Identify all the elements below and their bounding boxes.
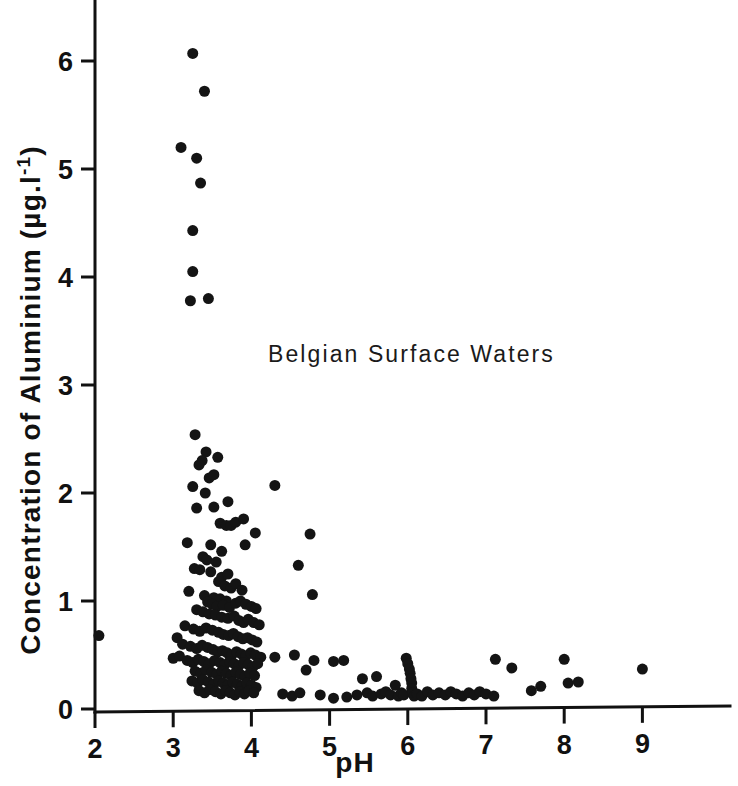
data-point bbox=[205, 566, 216, 577]
data-point bbox=[637, 664, 648, 675]
x-tick-label: 2 bbox=[87, 734, 102, 764]
data-point bbox=[216, 546, 227, 557]
data-point bbox=[328, 656, 339, 667]
data-point bbox=[182, 537, 193, 548]
y-axis-title-main: Concentration of Aluminium (µg.l bbox=[15, 175, 46, 655]
data-point bbox=[559, 654, 570, 665]
data-point bbox=[203, 293, 214, 304]
data-point bbox=[315, 689, 326, 700]
y-tick-label: 5 bbox=[58, 155, 73, 185]
data-point bbox=[526, 685, 537, 696]
data-point bbox=[351, 689, 362, 700]
y-tick-label: 0 bbox=[58, 695, 73, 725]
data-point bbox=[563, 678, 574, 689]
data-point bbox=[490, 654, 501, 665]
data-point bbox=[371, 671, 382, 682]
data-point bbox=[294, 687, 305, 698]
data-point bbox=[190, 429, 201, 440]
data-point bbox=[212, 452, 223, 463]
data-point bbox=[194, 564, 205, 575]
data-point bbox=[506, 662, 517, 673]
data-point bbox=[222, 496, 233, 507]
data-point bbox=[251, 603, 262, 614]
chart-figure: 0123456 23456789 pH Concentration of Alu… bbox=[0, 0, 738, 786]
data-point bbox=[183, 586, 194, 597]
data-point bbox=[307, 589, 318, 600]
x-tick-label: 8 bbox=[557, 730, 572, 760]
data-point bbox=[251, 637, 262, 648]
y-axis-ticks bbox=[81, 61, 95, 709]
data-point bbox=[205, 539, 216, 550]
scatter-plot-canvas: 0123456 23456789 pH Concentration of Alu… bbox=[0, 0, 738, 786]
data-point bbox=[535, 681, 546, 692]
data-points-layer bbox=[93, 48, 647, 704]
x-tick-label: 7 bbox=[478, 730, 493, 760]
x-tick-label: 6 bbox=[400, 731, 415, 761]
x-axis-line bbox=[95, 706, 730, 712]
data-point bbox=[176, 142, 187, 153]
y-axis-title-suffix: ) bbox=[15, 145, 46, 156]
y-tick-label: 4 bbox=[58, 263, 73, 293]
y-tick-label: 2 bbox=[58, 479, 73, 509]
y-tick-label: 1 bbox=[58, 587, 73, 617]
data-point bbox=[208, 502, 219, 513]
x-tick-label: 9 bbox=[635, 729, 650, 759]
data-point bbox=[328, 693, 339, 704]
data-point bbox=[93, 630, 104, 641]
data-point bbox=[488, 691, 499, 702]
data-point bbox=[341, 692, 352, 703]
data-point bbox=[187, 266, 198, 277]
data-point bbox=[254, 619, 265, 630]
y-tick-label: 3 bbox=[58, 371, 73, 401]
data-point bbox=[238, 513, 249, 524]
data-point bbox=[277, 688, 288, 699]
data-point bbox=[208, 469, 219, 480]
data-point bbox=[240, 539, 251, 550]
data-point bbox=[573, 677, 584, 688]
data-point bbox=[250, 527, 261, 538]
data-point bbox=[338, 655, 349, 666]
data-point bbox=[293, 560, 304, 571]
y-axis-title-superscript: -1 bbox=[13, 156, 34, 175]
data-point bbox=[222, 569, 233, 580]
data-point bbox=[199, 86, 210, 97]
y-axis-title: Concentration of Aluminium (µg.l-1) bbox=[13, 145, 47, 655]
plot-annotation: Belgian Surface Waters bbox=[268, 341, 555, 367]
data-point bbox=[305, 529, 316, 540]
data-point bbox=[187, 225, 198, 236]
data-point bbox=[301, 665, 312, 676]
data-point bbox=[308, 655, 319, 666]
data-point bbox=[194, 459, 205, 470]
data-point bbox=[269, 480, 280, 491]
data-point bbox=[237, 585, 248, 596]
data-point bbox=[191, 153, 202, 164]
data-point bbox=[211, 557, 222, 568]
data-point bbox=[269, 652, 280, 663]
data-point bbox=[195, 178, 206, 189]
data-point bbox=[191, 503, 202, 514]
data-point bbox=[187, 481, 198, 492]
x-axis-title: pH bbox=[335, 747, 375, 778]
data-point bbox=[185, 295, 196, 306]
data-point bbox=[357, 673, 368, 684]
data-point bbox=[252, 658, 263, 669]
data-point bbox=[200, 488, 211, 499]
data-point bbox=[289, 650, 300, 661]
y-tick-label: 6 bbox=[58, 47, 73, 77]
x-tick-label: 4 bbox=[244, 733, 259, 763]
data-point bbox=[248, 687, 259, 698]
x-tick-label: 3 bbox=[166, 733, 181, 763]
y-axis-tick-labels: 0123456 bbox=[58, 47, 73, 725]
data-point bbox=[187, 48, 198, 59]
data-point bbox=[201, 554, 212, 565]
